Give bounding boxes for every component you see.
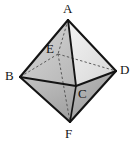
octahedron-figure: A B C D E F: [0, 0, 138, 142]
octahedron-drawing: [0, 0, 138, 142]
vertex-label-f: F: [65, 127, 72, 140]
vertex-label-a: A: [63, 2, 72, 15]
vertex-label-c: C: [78, 87, 87, 100]
vertex-label-d: D: [120, 63, 129, 76]
vertex-label-b: B: [5, 69, 14, 82]
vertex-label-e: E: [46, 42, 54, 55]
